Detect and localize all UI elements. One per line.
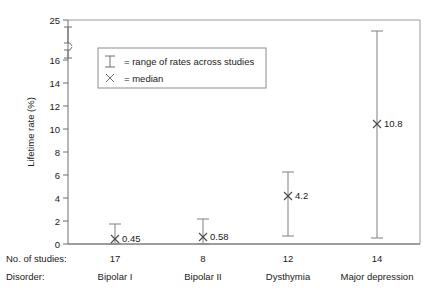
studies-count-dysthymia: 12 [283,253,294,264]
y-tick-label-14: 14 [49,78,60,89]
y-tick-label-25: 25 [49,15,60,26]
legend-label-range: = range of rates across studies [124,56,254,67]
studies-count-bipolar-i: 17 [110,253,121,264]
median-value-label-bipolar-ii: 0.58 [210,231,229,242]
row-header-no-of-studies: No. of studies: [6,253,67,264]
chart-container: 25 16 14 12 10 8 6 4 2 0 Lifetime rate (… [0,0,429,300]
median-value-label-bipolar-i: 0.45 [122,233,141,244]
median-value-label-dysthymia: 4.2 [295,190,308,201]
median-value-label-major-depression: 10.8 [384,118,403,129]
data-point-major-depression: 10.8 [371,31,403,238]
y-tick-label-0: 0 [55,239,60,250]
data-point-dysthymia: 4.2 [282,172,308,236]
y-axis-title: Lifetime rate (%) [25,97,36,167]
y-tick-label-4: 4 [55,193,60,204]
y-tick-label-10: 10 [49,124,60,135]
chart-legend: = range of rates across studies = median [98,48,266,88]
bottom-table-row-disorder: Disorder: Bipolar I Bipolar II Dysthymia… [6,271,413,282]
disorder-label-dysthymia: Dysthymia [266,271,311,282]
y-tick-label-12: 12 [49,101,60,112]
row-header-disorder: Disorder: [6,271,45,282]
y-tick-label-8: 8 [55,147,60,158]
disorder-label-bipolar-i: Bipolar I [98,271,133,282]
bottom-table-row-studies: No. of studies: 17 8 12 14 [6,253,382,264]
y-tick-label-2: 2 [55,216,60,227]
studies-count-bipolar-ii: 8 [200,253,205,264]
legend-label-median: = median [124,73,163,84]
data-point-bipolar-i: 0.45 [109,224,141,244]
y-axis-break [64,27,72,58]
y-tick-label-6: 6 [55,170,60,181]
data-point-bipolar-ii: 0.58 [197,219,229,244]
studies-count-major-depression: 14 [372,253,383,264]
disorder-label-bipolar-ii: Bipolar II [184,271,222,282]
lifetime-rate-error-bar-chart: 25 16 14 12 10 8 6 4 2 0 Lifetime rate (… [0,0,429,300]
y-tick-label-16: 16 [49,55,60,66]
disorder-label-major-depression: Major depression [341,271,414,282]
